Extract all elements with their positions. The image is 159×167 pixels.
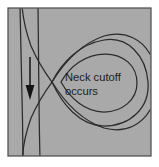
neck-cutoff-diagram: Neck cutoff occurs bbox=[0, 0, 159, 167]
annotation-line-2: occurs bbox=[65, 85, 98, 97]
annotation-line-1: Neck cutoff bbox=[65, 71, 122, 83]
figure-container: Neck cutoff occurs bbox=[0, 0, 159, 167]
